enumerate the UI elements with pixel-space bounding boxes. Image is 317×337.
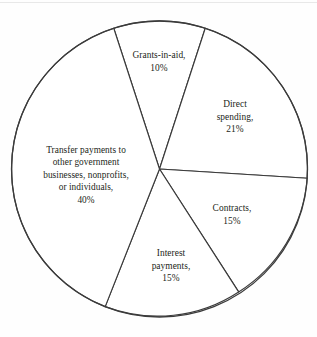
pie-chart-figure: Grants-in-aid, 10% Direct spending, 21% … — [0, 0, 317, 337]
pie-chart-svg — [0, 0, 317, 337]
